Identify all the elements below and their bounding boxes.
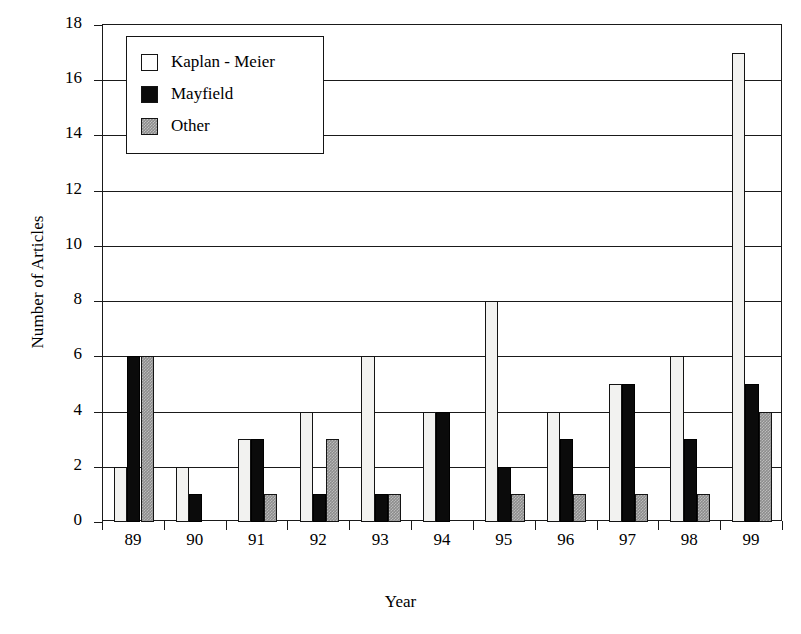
x-tick-label-90: 90 xyxy=(165,530,225,550)
y-tick-mark xyxy=(94,191,103,192)
bar-89-mayfield xyxy=(127,356,140,522)
legend-item-mayfield: Mayfield xyxy=(141,78,323,110)
bar-91-mayfield xyxy=(251,439,264,522)
legend-item-kaplan-meier: Kaplan - Meier xyxy=(141,46,323,78)
bar-95-kaplan-meier xyxy=(485,301,498,522)
x-tick-mark xyxy=(597,521,598,530)
bar-95-mayfield xyxy=(498,467,511,522)
bar-94-kaplan-meier xyxy=(423,412,436,522)
x-tick-label-91: 91 xyxy=(227,530,287,550)
bar-96-mayfield xyxy=(560,439,573,522)
bar-97-kaplan-meier xyxy=(609,384,622,522)
x-tick-mark xyxy=(535,521,536,530)
legend-label: Other xyxy=(171,116,210,136)
y-tick-label: 10 xyxy=(38,237,82,251)
bar-89-other xyxy=(141,356,154,522)
y-tick-mark xyxy=(94,467,103,468)
bar-99-kaplan-meier xyxy=(732,53,745,522)
bar-91-other xyxy=(264,494,277,522)
bar-98-other xyxy=(697,494,710,522)
y-tick-label: 18 xyxy=(38,16,82,30)
y-tick-label: 0 xyxy=(38,513,82,527)
x-axis-title: Year xyxy=(0,592,801,612)
legend-item-other: Other xyxy=(141,110,323,142)
y-tick-mark xyxy=(94,301,103,302)
x-tick-mark xyxy=(720,521,721,530)
legend-label: Mayfield xyxy=(171,84,233,104)
y-tick-mark xyxy=(94,356,103,357)
x-tick-label-95: 95 xyxy=(474,530,534,550)
y-tick-label: 4 xyxy=(38,403,82,417)
bar-96-kaplan-meier xyxy=(547,412,560,522)
gridline xyxy=(103,191,781,192)
y-tick-label: 12 xyxy=(38,182,82,196)
x-tick-mark xyxy=(349,521,350,530)
x-tick-label-98: 98 xyxy=(659,530,719,550)
bar-90-mayfield xyxy=(189,494,202,522)
x-tick-label-93: 93 xyxy=(350,530,410,550)
x-tick-label-89: 89 xyxy=(103,530,163,550)
y-tick-mark xyxy=(94,246,103,247)
bar-89-kaplan-meier xyxy=(114,467,127,522)
y-tick-mark xyxy=(94,80,103,81)
x-tick-label-92: 92 xyxy=(288,530,348,550)
legend: Kaplan - Meier Mayfield Other xyxy=(126,36,324,154)
bar-94-mayfield xyxy=(436,412,449,522)
y-tick-label: 16 xyxy=(38,71,82,85)
bar-97-other xyxy=(635,494,648,522)
gridline xyxy=(103,301,781,302)
bar-90-kaplan-meier xyxy=(176,467,189,522)
bar-92-mayfield xyxy=(313,494,326,522)
legend-label: Kaplan - Meier xyxy=(171,52,275,72)
y-tick-label: 2 xyxy=(38,458,82,472)
y-tick-label: 6 xyxy=(38,347,82,361)
x-tick-mark xyxy=(287,521,288,530)
y-tick-label: 14 xyxy=(38,126,82,140)
bar-93-mayfield xyxy=(375,494,388,522)
bar-97-mayfield xyxy=(622,384,635,522)
bar-chart: Number of Articles 024681012141618 Kapla… xyxy=(0,0,801,634)
plot-area: Kaplan - Meier Mayfield Other xyxy=(102,24,782,521)
y-tick-label: 8 xyxy=(38,292,82,306)
bar-93-kaplan-meier xyxy=(361,356,374,522)
x-tick-mark xyxy=(226,521,227,530)
y-tick-mark xyxy=(94,135,103,136)
open-square-swatch-icon xyxy=(141,54,158,71)
bar-93-other xyxy=(388,494,401,522)
hatched-square-swatch-icon xyxy=(141,118,158,135)
x-tick-mark xyxy=(164,521,165,530)
x-tick-label-97: 97 xyxy=(597,530,657,550)
bar-96-other xyxy=(573,494,586,522)
gridline xyxy=(103,246,781,247)
bar-98-kaplan-meier xyxy=(670,356,683,522)
bar-98-mayfield xyxy=(684,439,697,522)
bar-92-kaplan-meier xyxy=(300,412,313,522)
x-tick-label-94: 94 xyxy=(412,530,472,550)
x-tick-label-96: 96 xyxy=(536,530,596,550)
x-tick-label-99: 99 xyxy=(721,530,781,550)
x-tick-mark xyxy=(658,521,659,530)
x-tick-mark xyxy=(473,521,474,530)
bar-99-mayfield xyxy=(745,384,758,522)
filled-square-swatch-icon xyxy=(141,86,158,103)
bar-92-other xyxy=(326,439,339,522)
bar-91-kaplan-meier xyxy=(238,439,251,522)
bar-99-other xyxy=(759,412,772,522)
y-tick-mark xyxy=(94,412,103,413)
bar-95-other xyxy=(511,494,524,522)
x-tick-mark xyxy=(411,521,412,530)
y-tick-mark xyxy=(94,25,103,26)
x-tick-mark xyxy=(102,521,103,530)
x-tick-mark xyxy=(782,521,783,530)
